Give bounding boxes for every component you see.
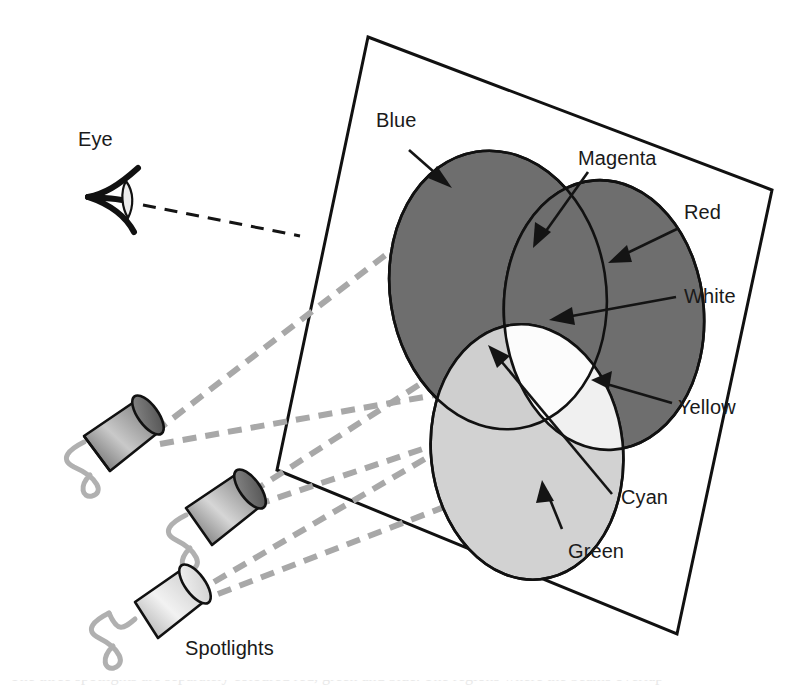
spotlight-2-cable <box>168 515 197 570</box>
label-red: Red <box>684 201 721 223</box>
label-blue: Blue <box>376 109 416 131</box>
bottom-caption-strip: The three spotlights are separately colo… <box>0 680 796 696</box>
spotlight-1 <box>66 391 169 497</box>
label-magenta: Magenta <box>578 147 657 169</box>
color-mixing-diagram: Eye Blue Magenta Red White Yellow Cyan G… <box>0 0 796 696</box>
label-cyan: Cyan <box>621 486 668 508</box>
colour-regions-group <box>369 135 713 590</box>
label-spotlights: Spotlights <box>185 637 274 659</box>
label-eye: Eye <box>78 128 113 150</box>
label-green: Green <box>568 540 624 562</box>
bottom-caption-text: The three spotlights are separately colo… <box>10 680 663 685</box>
spotlight-3-cable-joint <box>109 613 135 627</box>
eye-icon <box>88 168 138 232</box>
line-of-sight <box>143 205 300 236</box>
figure-root: Eye Blue Magenta Red White Yellow Cyan G… <box>0 0 796 696</box>
beam-line-2 <box>160 392 452 444</box>
label-yellow: Yellow <box>678 396 736 418</box>
label-white: White <box>684 285 736 307</box>
